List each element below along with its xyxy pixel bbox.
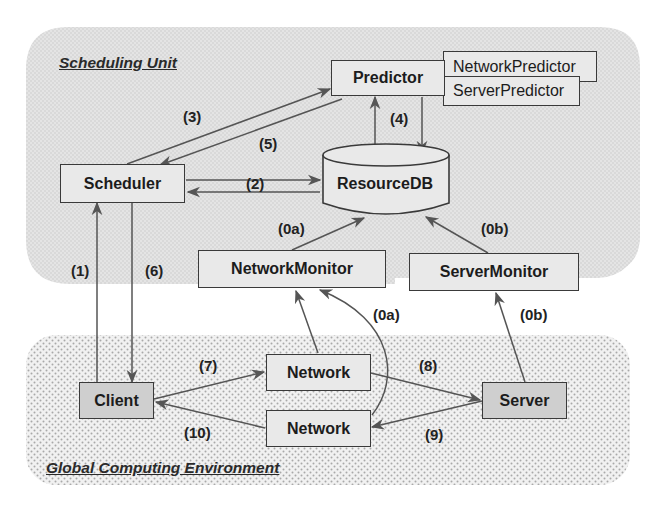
network-monitor-box: NetworkMonitor <box>198 250 386 288</box>
client-label: Client <box>94 392 138 410</box>
edge-label-5: (5) <box>259 135 277 152</box>
edge-label-7: (7) <box>199 357 217 374</box>
network-bottom-label: Network <box>287 420 350 438</box>
edge-label-0b-lower: (0b) <box>520 306 548 323</box>
network-monitor-label: NetworkMonitor <box>231 260 353 278</box>
predictor-box: Predictor <box>331 60 445 96</box>
scheduling-unit-title: Scheduling Unit <box>59 54 177 72</box>
network-top-box: Network <box>266 354 371 391</box>
edge-label-9: (9) <box>425 426 443 443</box>
edge-label-0a-lower: (0a) <box>373 306 400 323</box>
server-monitor-label: ServerMonitor <box>440 263 548 281</box>
edge-label-0a-upper: (0a) <box>278 220 305 237</box>
resource-db-label: ResourceDB <box>320 175 450 193</box>
edge-label-0b-upper: (0b) <box>481 220 509 237</box>
edge-label-4: (4) <box>390 110 408 127</box>
edge-label-3: (3) <box>183 108 201 125</box>
edge-label-10: (10) <box>184 424 211 441</box>
server-label: Server <box>500 392 550 410</box>
scheduler-label: Scheduler <box>84 175 161 193</box>
client-box: Client <box>79 382 154 419</box>
network-bottom-box: Network <box>266 410 371 447</box>
edge-label-1: (1) <box>71 262 89 279</box>
edge-label-2: (2) <box>246 175 264 192</box>
edge-label-6: (6) <box>145 262 163 279</box>
server-predictor-box: ServerPredictor <box>443 76 580 106</box>
server-box: Server <box>482 382 567 419</box>
network-predictor-label: NetworkPredictor <box>453 58 576 76</box>
server-predictor-label: ServerPredictor <box>453 82 564 100</box>
network-top-label: Network <box>287 364 350 382</box>
predictor-label: Predictor <box>353 69 423 87</box>
global-env-title: Global Computing Environment <box>46 459 279 477</box>
server-monitor-box: ServerMonitor <box>409 253 579 291</box>
edge-label-8: (8) <box>419 357 437 374</box>
scheduler-box: Scheduler <box>60 164 185 203</box>
